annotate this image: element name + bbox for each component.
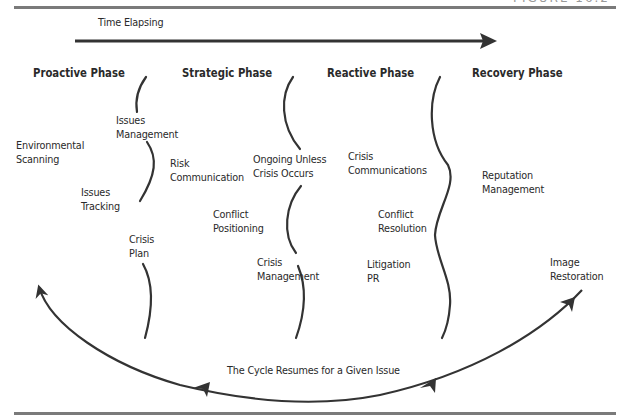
item-crisis-management: Crisis Management xyxy=(257,256,319,284)
item-issues-tracking: Issues Tracking xyxy=(81,186,120,214)
phase-divider-2 xyxy=(284,77,304,338)
item-ongoing-unless-crisis-occurs: Ongoing Unless Crisis Occurs xyxy=(253,153,326,181)
phase-title-proactive: Proactive Phase xyxy=(33,66,125,80)
item-issues-management: Issues Management xyxy=(116,114,178,142)
phase-title-strategic: Strategic Phase xyxy=(182,66,272,80)
item-crisis-plan: Crisis Plan xyxy=(129,233,154,261)
phase-divider-3 xyxy=(432,77,451,338)
time-elapsing-label: Time Elapsing xyxy=(98,16,163,30)
item-risk-communication: Risk Communication xyxy=(170,157,244,185)
cycle-label: The Cycle Resumes for a Given Issue xyxy=(227,364,400,378)
phase-title-recovery: Recovery Phase xyxy=(472,66,563,80)
item-environmental-scanning: Environmental Scanning xyxy=(16,139,84,167)
item-reputation-management: Reputation Management xyxy=(482,169,544,197)
item-conflict-resolution: Conflict Resolution xyxy=(378,208,427,236)
item-litigation-pr: Litigation PR xyxy=(367,258,410,286)
item-conflict-positioning: Conflict Positioning xyxy=(213,208,264,236)
cycle-arrow-head-mid-right-icon xyxy=(420,378,436,393)
item-image-restoration: Image Restoration xyxy=(550,256,604,284)
phase-title-reactive: Reactive Phase xyxy=(327,66,414,80)
cycle-arrow xyxy=(39,287,582,402)
item-crisis-communications: Crisis Communications xyxy=(348,150,427,178)
